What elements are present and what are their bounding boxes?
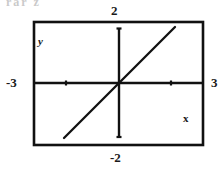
axis-label-bottom: -2 [110,151,121,164]
graph-figure: rar z 2 -2 -3 3 y x [0,0,224,173]
axis-label-left: -3 [6,76,17,89]
axis-label-right: 3 [211,76,218,89]
plot-canvas [0,0,224,173]
axis-label-top: 2 [111,4,118,17]
y-axis-letter: y [38,36,43,47]
x-axis-letter: x [183,113,189,124]
cut-off-header-text: rar z [6,0,41,10]
